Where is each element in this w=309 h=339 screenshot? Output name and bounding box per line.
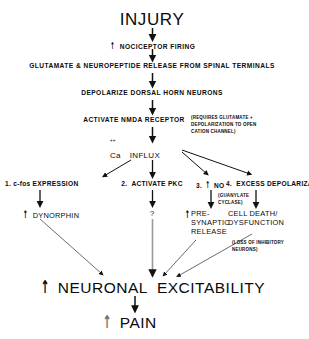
node-neuronal-excitability-label: NEURONAL EXCITABILITY bbox=[58, 279, 265, 296]
node-nociceptor-firing-label: NOCICEPTOR FIRING bbox=[120, 43, 196, 50]
node-branch-1-cfos: 1. c-fos EXPRESSION bbox=[5, 180, 79, 187]
node-pain-label: PAIN bbox=[120, 314, 157, 331]
up-arrow-icon: ↑ bbox=[103, 313, 112, 333]
up-arrow-icon: ↑ bbox=[206, 180, 211, 191]
node-glutamate-release: GLUTAMATE & NEUROPEPTIDE RELEASE FROM SP… bbox=[29, 62, 275, 69]
up-arrow-icon: ↑ bbox=[110, 41, 115, 52]
edge-influx-to-branch4 bbox=[182, 150, 250, 174]
node-branch-3-no: 3.↑NO bbox=[196, 180, 224, 190]
node-depolarize-dorsal-horn: DEPOLARIZE DORSAL HORN NEURONS bbox=[81, 89, 223, 96]
pain-pathway-diagram: INJURY ↑NOCICEPTOR FIRING GLUTAMATE & NE… bbox=[0, 0, 309, 339]
node-neuronal-excitability: ↑NEURONAL EXCITABILITY bbox=[38, 278, 265, 297]
edge-dynorphin-to-excitability bbox=[40, 219, 102, 274]
node-presynaptic-release: ↑PRE- SYNAPTIC RELEASE bbox=[183, 209, 230, 236]
up-arrow-icon: ↑ bbox=[41, 278, 50, 298]
node-influx-label: INFLUX bbox=[130, 151, 160, 160]
node-branch-3-label: NO bbox=[214, 182, 225, 189]
node-branch-3-number: 3. bbox=[196, 182, 202, 189]
node-presynaptic-release-label: PRE- SYNAPTIC RELEASE bbox=[183, 209, 230, 236]
node-injury: INJURY bbox=[120, 10, 185, 29]
note-guanylate-cyclase: (GUANYLATE CYCLASE) bbox=[218, 193, 278, 207]
up-arrow-icon: ↑ bbox=[23, 209, 28, 222]
node-pain: ↑PAIN bbox=[100, 313, 157, 332]
node-branch-4-excess-depolarization: 4. EXCESS DEPOLARIZATION bbox=[226, 180, 309, 187]
node-question-mark: ? bbox=[150, 210, 154, 218]
edge-influx-to-branch3 bbox=[182, 152, 207, 174]
edge-influx-to-branch1 bbox=[104, 160, 131, 176]
node-dynorphin-label: DYNORPHIN bbox=[33, 211, 80, 220]
node-calcium-influx: Ca++INFLUX bbox=[110, 144, 160, 162]
up-arrow-icon: ↑ bbox=[185, 209, 190, 222]
node-nociceptor-firing: ↑NOCICEPTOR FIRING bbox=[109, 41, 196, 51]
node-calcium-label: Ca bbox=[110, 151, 121, 160]
node-calcium-charge: ++ bbox=[110, 138, 115, 143]
node-branch-2-pkc: 2. ACTIVATE PKC bbox=[121, 180, 182, 187]
node-activate-nmda: ACTIVATE NMDA RECEPTOR bbox=[83, 116, 185, 123]
node-cell-death-dysfunction: CELL DEATH/ DYSFUNCTION bbox=[228, 209, 284, 227]
edge-presynaptic-to-excitability bbox=[164, 240, 196, 275]
note-nmda-requirements: (REQUIRES GLUTAMATE + DEPOLARIZATION TO … bbox=[191, 115, 303, 136]
note-loss-inhibitory-neurons: (LOSS OF INHIBITORY NEURONS) bbox=[232, 240, 304, 254]
node-dynorphin: ↑DYNORPHIN bbox=[21, 209, 79, 221]
